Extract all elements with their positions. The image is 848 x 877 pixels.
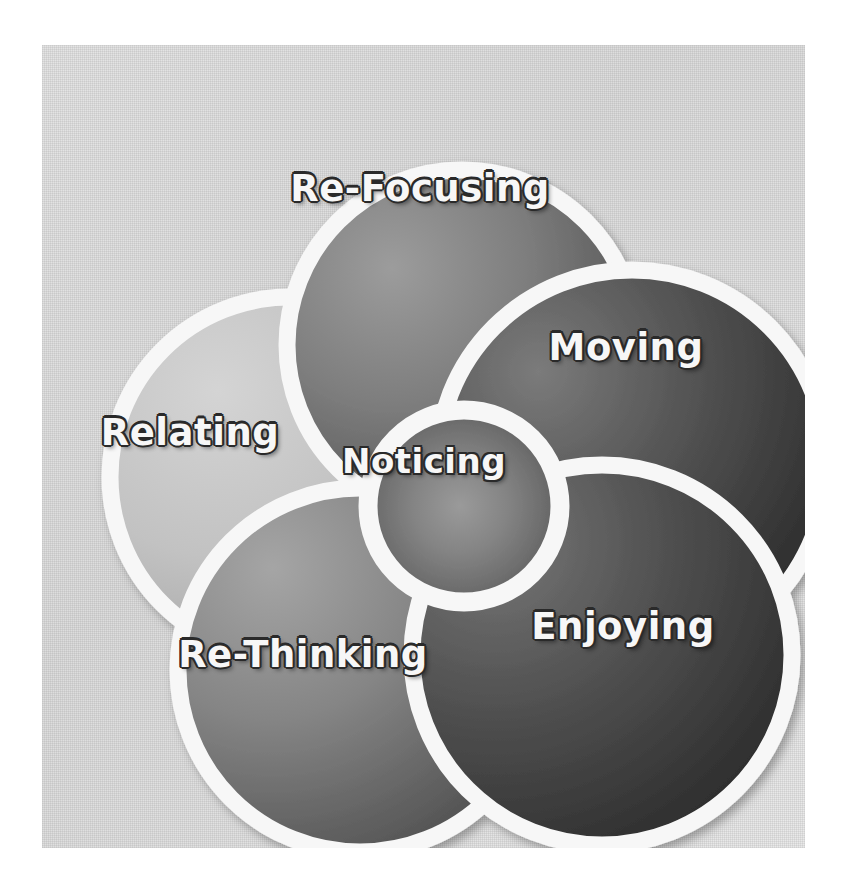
noticing-cycle-diagram	[42, 45, 805, 848]
center-circle-noticing[interactable]	[368, 410, 560, 602]
petal-group	[110, 170, 805, 848]
diagram-canvas: Re-Focusing Moving Enjoying Re-Thinking …	[0, 0, 848, 877]
